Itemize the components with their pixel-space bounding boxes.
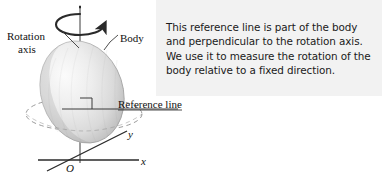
label-origin: O — [66, 162, 74, 174]
label-rotation-axis-line2: axis — [18, 43, 36, 55]
rigid-body-ellipsoid — [27, 30, 137, 154]
rotation-figure: Rotation axis Body Reference line y x O … — [0, 0, 382, 187]
callout-text: This reference line is part of the body … — [166, 20, 376, 78]
label-rotation-axis-line1: Rotation — [7, 30, 45, 42]
leader-line-body — [104, 35, 118, 50]
label-axis-x: x — [141, 155, 146, 167]
label-reference-line: Reference line — [118, 98, 182, 110]
label-body: Body — [120, 32, 144, 44]
label-axis-y: y — [128, 128, 133, 140]
